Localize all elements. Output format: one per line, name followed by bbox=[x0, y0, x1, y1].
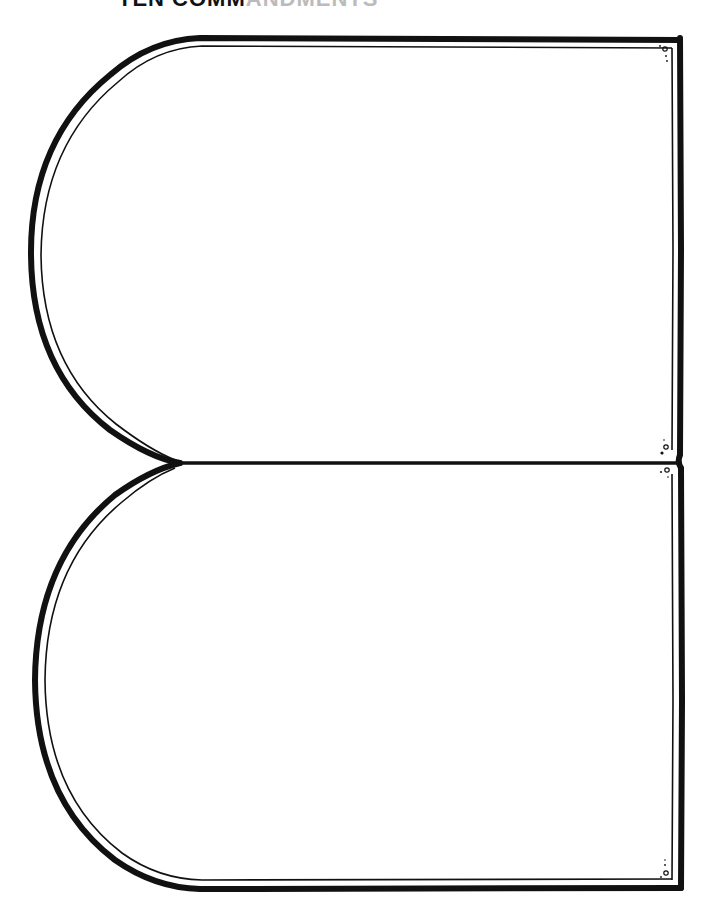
lower-tablet bbox=[35, 463, 681, 889]
tablets-outline bbox=[0, 0, 711, 917]
middle-dots-icon bbox=[660, 439, 669, 478]
upper-tablet bbox=[31, 38, 680, 463]
corner-dots-icon bbox=[660, 859, 668, 878]
